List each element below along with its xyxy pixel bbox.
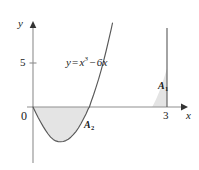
equation-minus: − xyxy=(88,56,96,68)
region-label-a1-base: A xyxy=(158,80,165,91)
x-axis-label: x xyxy=(186,110,191,121)
equation-term2: 6x xyxy=(97,56,108,68)
math-figure: y x 5 0 3 y=x3−6x A1 A2 xyxy=(0,0,199,170)
x-tick-label-3: 3 xyxy=(163,110,169,121)
y-axis-label: y xyxy=(18,18,23,29)
y-axis-arrowhead xyxy=(30,21,37,28)
equation-label: y=x3−6x xyxy=(66,57,108,68)
graph-canvas xyxy=(0,0,199,170)
region-label-a2-base: A xyxy=(84,119,91,130)
origin-label: 0 xyxy=(21,110,27,122)
y-tick-label-5: 5 xyxy=(20,57,26,68)
region-label-a1: A1 xyxy=(158,81,168,91)
region-label-a2: A2 xyxy=(84,120,94,130)
region-label-a1-sub: 1 xyxy=(165,85,168,92)
region-label-a2-sub: 2 xyxy=(91,124,94,131)
equation-equals: = xyxy=(71,56,79,68)
